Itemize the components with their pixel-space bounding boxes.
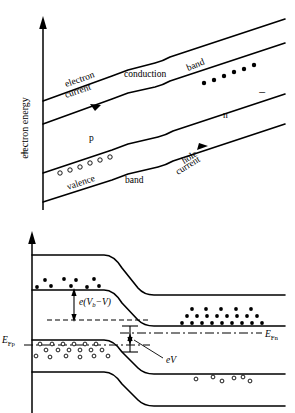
- figure-root: electron energy electron current conduct…: [0, 0, 295, 413]
- lower-n-side-electrons: [180, 307, 264, 325]
- minus-terminal-label: −: [258, 85, 265, 100]
- hole-current-arrow: [197, 143, 208, 150]
- valence-band-word-label: band: [125, 175, 144, 185]
- fermi-n-subscript: Fn: [271, 334, 279, 341]
- barrier-paren-close: ): [107, 297, 111, 308]
- lower-valence-band-top-edge: [32, 340, 285, 374]
- upper-diagram: electron energy electron current conduct…: [19, 16, 285, 210]
- electron-current-arrow: [90, 104, 101, 111]
- upper-valence-band-top-edge: [43, 94, 285, 173]
- fermi-level-p-label: EFp: [1, 335, 16, 347]
- barrier-height-label: e(Vb−V): [79, 297, 111, 308]
- fermi-level-n-label: EFn: [264, 329, 279, 341]
- band-diagram-figure: electron energy electron current conduct…: [0, 0, 295, 413]
- applied-bias-label: eV: [166, 355, 177, 365]
- p-region-label: p: [89, 133, 94, 143]
- applied-bias-v: V: [170, 355, 177, 365]
- plus-terminal-label: +: [20, 145, 27, 160]
- lower-valence-band-bottom-edge: [32, 372, 285, 406]
- lower-y-axis: [28, 231, 36, 413]
- n-region-label: n: [223, 110, 228, 120]
- upper-electron-carriers: [202, 63, 256, 85]
- conduction-label: conduction: [124, 69, 166, 79]
- lower-diagram: e(Vb−V) eV EFp EFn: [1, 231, 285, 413]
- upper-y-axis: [39, 16, 47, 210]
- valence-label: valence: [65, 173, 96, 192]
- lower-p-side-electrons: [35, 277, 101, 289]
- barrier-measure-arrowhead-down: [71, 314, 76, 322]
- lower-conduction-band-top-edge: [32, 255, 285, 295]
- fermi-p-subscript: Fp: [8, 340, 16, 347]
- lower-n-side-holes: [194, 375, 252, 383]
- applied-bias-leader-line: [134, 340, 163, 358]
